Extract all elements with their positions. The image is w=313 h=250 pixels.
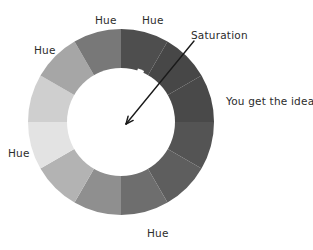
hue-label-left: Hue (8, 148, 30, 159)
hue-label-top-right: Hue (142, 15, 164, 26)
hue-label-bottom: Hue (147, 228, 169, 239)
you-get-the-idea-label: You get the idea (226, 96, 313, 107)
diagram-canvas: Hue Hue Hue Hue Hue Saturation You get t… (0, 0, 313, 250)
hue-label-top-left: Hue (95, 15, 117, 26)
color-wheel-figure (0, 0, 313, 250)
hue-label-upper-left: Hue (34, 45, 56, 56)
saturation-label: Saturation (191, 30, 248, 41)
